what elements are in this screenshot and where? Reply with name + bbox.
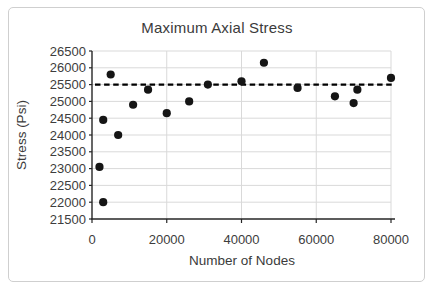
y-axis-tick-label: 24500 [30,111,86,126]
data-point [387,74,395,82]
data-point [237,77,245,85]
y-axis-tick-label: 22500 [30,178,86,193]
x-axis-tick-label: 20000 [135,232,199,247]
y-axis-tick-label: 25500 [30,77,86,92]
x-axis-tick-label: 60000 [284,232,348,247]
chart-title: Maximum Axial Stress [8,19,426,36]
x-axis-tick-label: 40000 [210,232,274,247]
data-point [99,116,107,124]
y-axis-tick-label: 22000 [30,195,86,210]
y-axis-tick-label: 21500 [30,212,86,227]
screenshot-root: Maximum Axial Stress Stress (Psi) Number… [0,0,430,292]
data-point [99,198,107,206]
data-point [353,86,361,94]
x-axis-tick-label: 0 [60,232,124,247]
data-point [331,92,339,100]
data-point [293,84,301,92]
data-point [204,81,212,89]
data-point [350,99,358,107]
y-axis-title-text: Stress (Psi) [14,100,29,170]
x-axis-title: Number of Nodes [92,253,392,268]
data-point [95,163,103,171]
x-axis-tick-label: 80000 [359,232,423,247]
data-point [260,59,268,67]
y-axis-tick-label: 23500 [30,144,86,159]
data-point [185,97,193,105]
y-axis-tick-label: 23000 [30,161,86,176]
data-point [144,86,152,94]
y-axis-tick-label: 25000 [30,94,86,109]
y-axis-tick-label: 24000 [30,128,86,143]
data-point [114,131,122,139]
y-axis-tick-label: 26500 [30,44,86,59]
data-point [163,109,171,117]
data-point [107,70,115,78]
y-axis-tick-label: 26000 [30,60,86,75]
data-point [129,101,137,109]
